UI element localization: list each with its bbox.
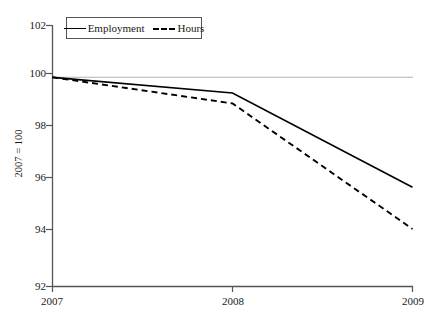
- legend-label: Employment: [88, 23, 145, 34]
- legend-swatch-solid-icon: [64, 24, 86, 33]
- plot-area: [0, 0, 429, 329]
- legend-label: Hours: [177, 23, 204, 34]
- legend-item-hours: Hours: [153, 23, 204, 34]
- series-line-hours: [53, 77, 413, 229]
- legend-item-employment: Employment: [64, 23, 145, 34]
- series-line-employment: [53, 77, 413, 187]
- legend-swatch-dashed-icon: [153, 24, 175, 33]
- line-chart: 2007 = 100 102 100 98 96 94 92 2007 2008…: [0, 0, 429, 329]
- legend: Employment Hours: [66, 17, 202, 39]
